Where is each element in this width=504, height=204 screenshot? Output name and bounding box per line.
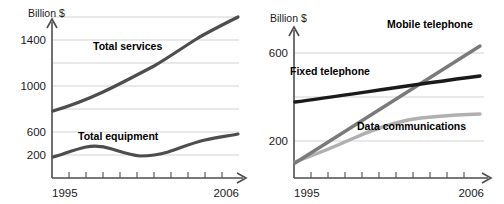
right-x-ticks xyxy=(311,172,464,178)
left-y-tick-1400: 1400 xyxy=(20,34,46,46)
right-y-tick-600: 600 xyxy=(269,47,288,59)
left-y-tick-600: 600 xyxy=(27,126,46,138)
series-label-total-equipment: Total equipment xyxy=(78,130,159,142)
left-x-tick-end: 2006 xyxy=(213,187,239,199)
chart-panel-services-equipment: Billion $ 1400 1000 600 200 1995 2006 To… xyxy=(0,0,252,204)
left-y-tick-1000: 1000 xyxy=(20,80,46,92)
left-x-ticks xyxy=(69,172,222,178)
right-axis-unit-label: Billion $ xyxy=(270,12,307,24)
series-label-fixed-telephone: Fixed telephone xyxy=(290,65,370,77)
right-y-tick-200: 200 xyxy=(269,135,288,147)
right-chart-svg: Billion $ 600 200 1995 2006 Mobile telep… xyxy=(252,0,504,204)
chart-panel-telecom-segments: Billion $ 600 200 1995 2006 Mobile telep… xyxy=(252,0,504,204)
series-line-fixed-telephone xyxy=(295,76,480,102)
dual-line-chart-figure: Billion $ 1400 1000 600 200 1995 2006 To… xyxy=(0,0,504,204)
left-y-tick-200: 200 xyxy=(27,149,46,161)
series-line-mobile-telephone xyxy=(295,46,480,163)
right-axes xyxy=(289,27,491,183)
left-x-tick-start: 1995 xyxy=(52,187,78,199)
right-x-tick-end: 2006 xyxy=(458,187,484,199)
left-chart-svg: Billion $ 1400 1000 600 200 1995 2006 To… xyxy=(0,0,252,204)
series-label-mobile-telephone: Mobile telephone xyxy=(387,18,473,30)
left-axis-unit-label: Billion $ xyxy=(28,7,65,19)
series-label-data-communications: Data communications xyxy=(357,120,466,132)
series-line-total-services xyxy=(53,17,238,111)
right-x-tick-start: 1995 xyxy=(294,187,320,199)
series-label-total-services: Total services xyxy=(93,40,162,52)
